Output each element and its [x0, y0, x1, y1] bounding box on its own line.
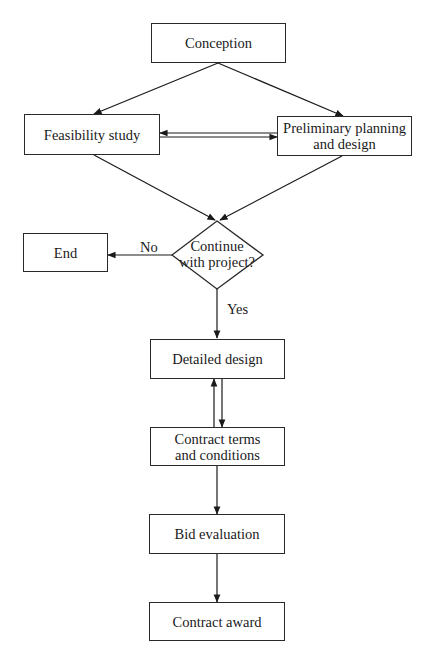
- decision-label-line1: Continue: [167, 238, 267, 254]
- edge-preliminary-decision: [220, 156, 342, 220]
- node-preliminary-planning-line1: Preliminary planning: [283, 120, 406, 136]
- node-contract-award: Contract award: [149, 602, 285, 641]
- connector-layer: [0, 0, 437, 663]
- edge-feasibility-decision: [94, 155, 215, 220]
- edge-conception-preliminary: [218, 63, 343, 116]
- edge-label-no: No: [140, 239, 158, 255]
- node-detailed-design: Detailed design: [150, 339, 285, 379]
- edge-conception-feasibility: [94, 63, 218, 114]
- node-conception: Conception: [151, 23, 286, 63]
- node-conception-label: Conception: [185, 35, 252, 51]
- node-preliminary-planning: Preliminary planning and design: [277, 116, 412, 156]
- decision-label: Continue with project?: [167, 238, 267, 270]
- node-detailed-design-label: Detailed design: [172, 351, 263, 367]
- node-end-label: End: [54, 245, 77, 261]
- node-bid-evaluation: Bid evaluation: [149, 514, 285, 554]
- node-bid-evaluation-label: Bid evaluation: [175, 526, 260, 542]
- node-feasibility-study-label: Feasibility study: [44, 127, 140, 143]
- node-feasibility-study: Feasibility study: [24, 114, 160, 155]
- node-contract-terms: Contract terms and conditions: [150, 427, 285, 466]
- node-contract-award-label: Contract award: [173, 614, 262, 630]
- decision-label-line2: with project?: [167, 254, 267, 270]
- node-contract-terms-line2: and conditions: [175, 447, 260, 463]
- edge-label-yes: Yes: [227, 301, 248, 317]
- node-preliminary-planning-line2: and design: [313, 136, 375, 152]
- flowchart-diagram: Conception Feasibility study Preliminary…: [0, 0, 437, 663]
- node-end: End: [23, 233, 108, 272]
- node-contract-terms-line1: Contract terms: [175, 431, 261, 447]
